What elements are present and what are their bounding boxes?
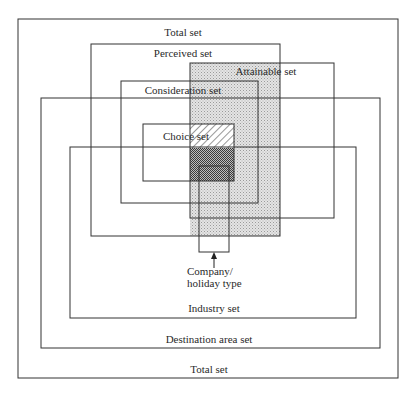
pointer-label-line1: Company/ [187,265,234,277]
consideration-set-label: Consideration set [145,84,222,96]
choice-industry-crosshatch [190,148,234,181]
marketing-sets-diagram: Total set Perceived set Attainable set C… [0,0,418,394]
perceived-set-label: Perceived set [154,47,212,59]
pointer-label-line2: holiday type [187,277,242,289]
total-set-label-top: Total set [164,26,201,38]
attainable-set-label: Attainable set [236,65,297,77]
total-set-label-bottom: Total set [190,363,227,375]
destination-area-set-label: Destination area set [166,333,253,345]
industry-set-label: Industry set [188,302,240,314]
choice-set-label: Choice set [163,130,209,142]
arrow-up-icon [211,252,217,259]
